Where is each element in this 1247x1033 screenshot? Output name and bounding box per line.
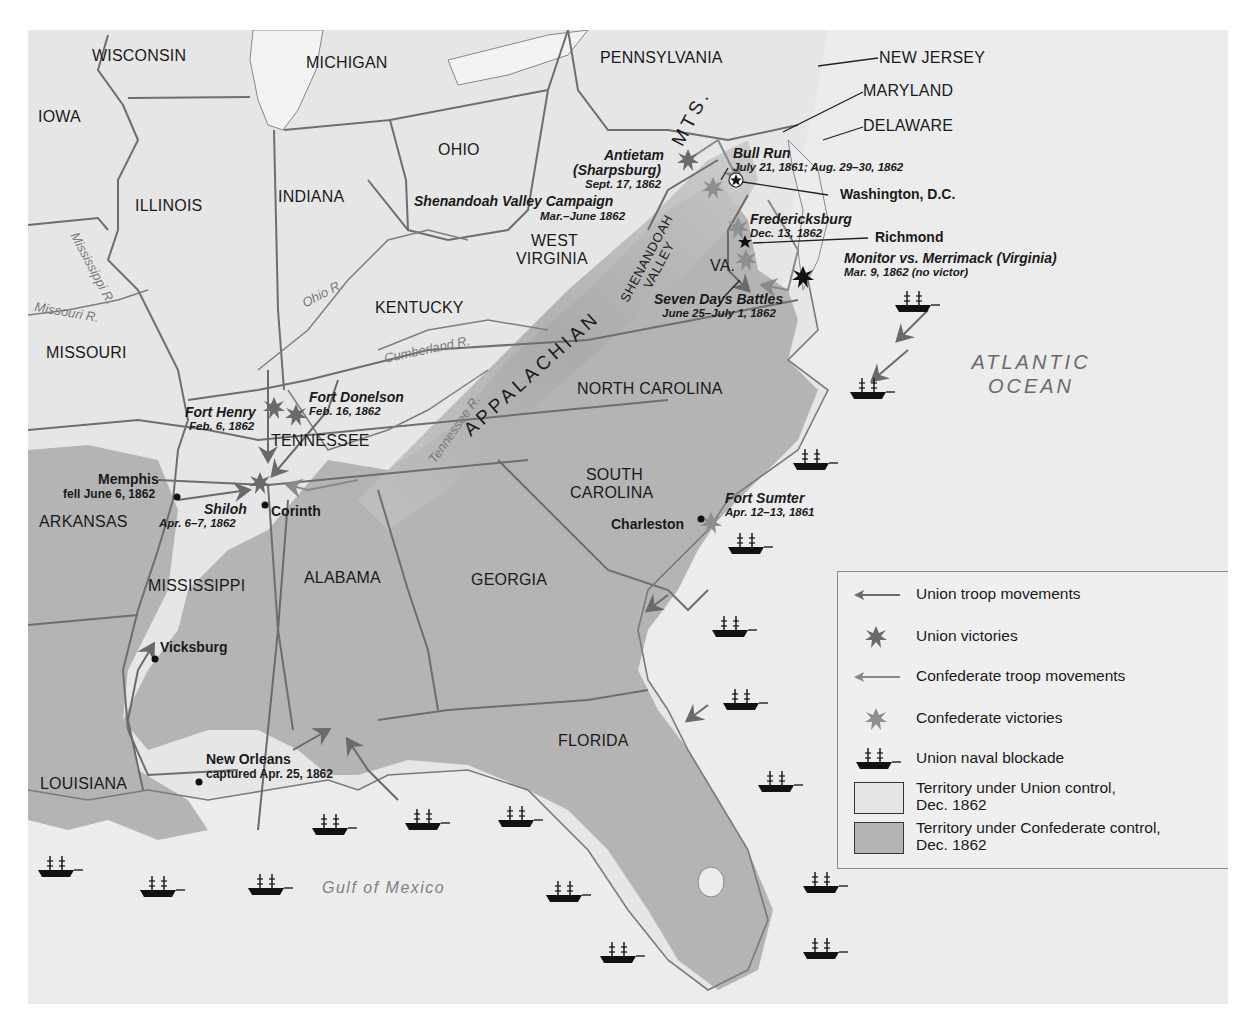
legend-row-union-territory: Territory under Union control, Dec. 1862 xyxy=(838,780,1228,820)
battle-label-fredericksburg: Fredericksburg xyxy=(750,212,852,226)
state-label-maryland: MARYLAND xyxy=(863,83,953,99)
battle-label-monitor-merrimack: Monitor vs. Merrimack (Virginia) xyxy=(844,251,1057,265)
battle-date-shiloh: Apr. 6–7, 1862 xyxy=(159,518,236,530)
legend-row-confed-territory: Territory under Confederate control, Dec… xyxy=(838,820,1228,860)
state-label-delaware: DELAWARE xyxy=(863,118,953,134)
legend-label-union-territory-1: Territory under Union control, xyxy=(916,780,1116,796)
ship-icon xyxy=(854,744,904,770)
battle-date-fort-sumter: Apr. 12–13, 1861 xyxy=(725,507,815,519)
battle-date-fredericksburg: Dec. 13, 1862 xyxy=(750,228,822,240)
state-label-pennsylvania: PENNSYLVANIA xyxy=(600,50,723,66)
legend-label-confed-victories: Confederate victories xyxy=(916,710,1062,726)
legend-label-confed-territory-2: Dec. 1862 xyxy=(916,837,987,853)
atlantic-line2: OCEAN xyxy=(966,376,1096,396)
city-label-corinth: Corinth xyxy=(271,504,321,518)
battle-label-fort-donelson: Fort Donelson xyxy=(309,390,404,404)
battle-label-seven-days: Seven Days Battles xyxy=(654,292,783,306)
battle-date-fort-donelson: Feb. 16, 1862 xyxy=(309,406,381,418)
legend-label-union-territory-2: Dec. 1862 xyxy=(916,797,987,813)
confederate-territory-swatch xyxy=(854,822,904,854)
city-label-charleston: Charleston xyxy=(611,517,684,531)
battle-date-monitor-merrimack: Mar. 9, 1862 (no victor) xyxy=(844,267,968,279)
state-label-virginia-w: VIRGINIA xyxy=(516,251,588,267)
state-label-indiana: INDIANA xyxy=(278,189,344,205)
city-label-washington: Washington, D.C. xyxy=(840,187,955,201)
state-label-north-carolina: NORTH CAROLINA xyxy=(577,381,723,397)
city-label-vicksburg: Vicksburg xyxy=(160,640,227,654)
battle-label-sharpsburg: (Sharpsburg) xyxy=(573,163,661,177)
state-label-louisiana: LOUISIANA xyxy=(40,776,127,792)
legend-row-union-troops: Union troop movements xyxy=(838,582,1228,612)
battle-label-shiloh: Shiloh xyxy=(204,502,247,516)
state-label-georgia: GEORGIA xyxy=(471,572,547,588)
map-legend: Union troop movements Union victories Co… xyxy=(837,571,1228,869)
battle-label-bull-run: Bull Run xyxy=(733,146,791,160)
legend-label-union-troops: Union troop movements xyxy=(916,586,1081,602)
state-label-south: SOUTH xyxy=(586,467,643,483)
state-label-new-jersey: NEW JERSEY xyxy=(879,50,985,66)
state-label-arkansas: ARKANSAS xyxy=(39,514,128,530)
city-label-richmond: Richmond xyxy=(875,230,943,244)
union-territory-swatch xyxy=(854,782,904,814)
legend-row-union-victories: Union victories xyxy=(838,623,1228,653)
battle-label-antietam: Antietam xyxy=(604,148,664,162)
gulf-of-mexico-label: Gulf of Mexico xyxy=(322,880,445,896)
legend-row-confed-troops: Confederate troop movements xyxy=(838,664,1228,694)
state-label-illinois: ILLINOIS xyxy=(135,198,202,214)
legend-label-confed-territory-1: Territory under Confederate control, xyxy=(916,820,1161,836)
state-label-ohio: OHIO xyxy=(438,142,480,158)
battle-date-fort-henry: Feb. 6, 1862 xyxy=(189,421,254,433)
city-label-memphis: Memphis xyxy=(98,472,159,486)
city-note-new-orleans: captured Apr. 25, 1862 xyxy=(206,768,333,780)
battle-label-fort-henry: Fort Henry xyxy=(185,405,256,419)
state-label-west: WEST xyxy=(531,233,578,249)
atlantic-line1: ATLANTIC xyxy=(966,352,1096,372)
state-label-alabama: ALABAMA xyxy=(304,570,381,586)
battle-label-shenandoah: Shenandoah Valley Campaign xyxy=(414,194,613,208)
state-label-wisconsin: WISCONSIN xyxy=(92,48,186,64)
state-label-mississippi: MISSISSIPPI xyxy=(148,578,245,594)
union-victory-burst-icon xyxy=(864,625,888,649)
state-label-kentucky: KENTUCKY xyxy=(375,300,464,316)
state-label-michigan: MICHIGAN xyxy=(306,55,388,71)
state-label-tennessee: TENNESSEE xyxy=(271,433,370,449)
state-label-va: VA. xyxy=(710,258,735,274)
state-label-florida: FLORIDA xyxy=(558,733,629,749)
city-note-memphis: fell June 6, 1862 xyxy=(63,488,155,500)
legend-row-blockade: Union naval blockade xyxy=(838,744,1228,774)
civil-war-map: WISCONSIN MICHIGAN IOWA ILLINOIS INDIANA… xyxy=(28,30,1228,1004)
state-label-carolina: CAROLINA xyxy=(570,485,653,501)
battle-label-fort-sumter: Fort Sumter xyxy=(725,491,804,505)
legend-label-confed-troops: Confederate troop movements xyxy=(916,668,1125,684)
battle-date-seven-days: June 25–July 1, 1862 xyxy=(662,308,776,320)
confederate-arrow-icon xyxy=(852,670,904,684)
battle-date-shenandoah: Mar.–June 1862 xyxy=(540,211,625,223)
state-label-iowa: IOWA xyxy=(38,109,81,125)
union-arrow-icon xyxy=(852,588,904,602)
confederate-victory-burst-icon xyxy=(864,707,888,731)
atlantic-ocean-label: ATLANTIC OCEAN xyxy=(966,352,1096,396)
state-label-missouri: MISSOURI xyxy=(46,345,127,361)
battle-date-bull-run: July 21, 1861; Aug. 29–30, 1862 xyxy=(733,162,903,174)
city-label-new-orleans: New Orleans xyxy=(206,752,291,766)
battle-date-antietam: Sept. 17, 1862 xyxy=(585,179,661,191)
legend-label-blockade: Union naval blockade xyxy=(916,750,1064,766)
legend-label-union-victories: Union victories xyxy=(916,628,1018,644)
legend-row-confed-victories: Confederate victories xyxy=(838,705,1228,735)
